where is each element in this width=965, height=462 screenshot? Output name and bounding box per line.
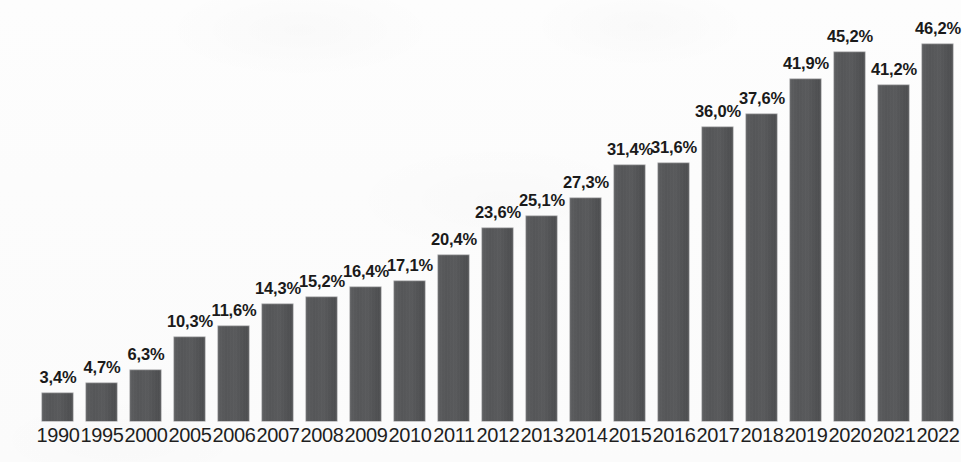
bar-group-2006: 11,6%2006: [212, 0, 256, 462]
bar-group-2005: 10,3%2005: [168, 0, 212, 462]
bar: [174, 337, 205, 421]
bar-value-label: 31,6%: [647, 138, 701, 157]
bar-group-2019: 41,9%2019: [784, 0, 828, 462]
bar-group-2018: 37,6%2018: [740, 0, 784, 462]
bar-value-label: 37,6%: [735, 89, 789, 108]
x-axis-tick-label: 2022: [911, 424, 965, 447]
bar: [878, 85, 909, 421]
bar-group-2008: 15,2%2008: [300, 0, 344, 462]
bar-value-label: 27,3%: [559, 173, 613, 192]
bar: [482, 228, 513, 421]
bar: [922, 44, 953, 421]
bar: [834, 52, 865, 421]
bar-group-1990: 3,4%1990: [36, 0, 80, 462]
bar: [526, 216, 557, 421]
bar: [42, 393, 73, 421]
bar-group-2011: 20,4%2011: [432, 0, 476, 462]
bar-group-2000: 6,3%2000: [124, 0, 168, 462]
bar: [790, 79, 821, 421]
bar: [306, 297, 337, 421]
bar-group-2007: 14,3%2007: [256, 0, 300, 462]
bar-group-2015: 31,4%2015: [608, 0, 652, 462]
bar-group-2017: 36,0%2017: [696, 0, 740, 462]
bar: [438, 255, 469, 421]
bar-group-2022: 46,2%2022: [916, 0, 960, 462]
bar: [130, 370, 161, 421]
bar-group-2013: 25,1%2013: [520, 0, 564, 462]
bar: [658, 163, 689, 421]
bar: [350, 287, 381, 421]
bar-value-label: 45,2%: [823, 27, 877, 46]
bar-group-2010: 17,1%2010: [388, 0, 432, 462]
bar-group-2020: 45,2%2020: [828, 0, 872, 462]
bar-value-label: 17,1%: [383, 256, 437, 275]
bar: [394, 281, 425, 421]
bar: [702, 127, 733, 421]
bar-value-label: 11,6%: [207, 301, 261, 320]
bar-group-2012: 23,6%2012: [476, 0, 520, 462]
bar-value-label: 46,2%: [911, 19, 965, 38]
bar-value-label: 41,9%: [779, 54, 833, 73]
bar-group-2021: 41,2%2021: [872, 0, 916, 462]
bar-group-2014: 27,3%2014: [564, 0, 608, 462]
bar: [218, 326, 249, 421]
bar: [86, 383, 117, 421]
bar-value-label: 6,3%: [119, 345, 173, 364]
bar-group-2009: 16,4%2009: [344, 0, 388, 462]
bar-group-1995: 4,7%1995: [80, 0, 124, 462]
bar-value-label: 20,4%: [427, 230, 481, 249]
bar: [570, 198, 601, 421]
bar: [262, 304, 293, 421]
bar: [746, 114, 777, 421]
bar-value-label: 41,2%: [867, 60, 921, 79]
bar-group-2016: 31,6%2016: [652, 0, 696, 462]
bar: [614, 165, 645, 421]
bar-value-label: 25,1%: [515, 191, 569, 210]
